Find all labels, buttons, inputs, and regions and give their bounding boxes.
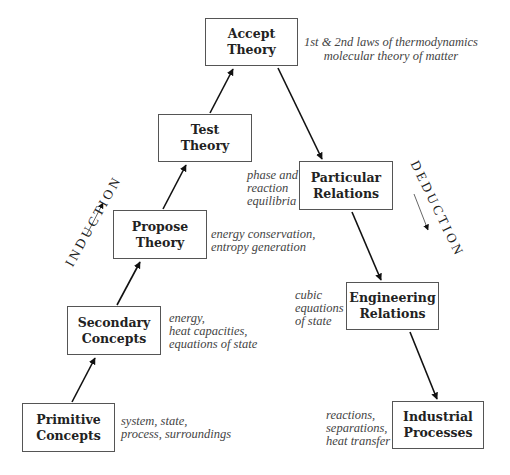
note-line: equations of state xyxy=(169,338,257,351)
arrow-particular-to-engineering xyxy=(352,212,381,280)
box-label-line1: Secondary xyxy=(78,315,151,331)
box-label-line2: Theory xyxy=(181,138,230,154)
note-propose-theory: energy conservation, entropy generation xyxy=(211,228,315,254)
box-label-line2: Theory xyxy=(227,42,276,58)
note-accept-theory: 1st & 2nd laws of thermodynamics molecul… xyxy=(304,36,478,63)
note-line: entropy generation xyxy=(211,241,315,254)
arrow-secondary-to-propose xyxy=(117,262,140,305)
arrow-primitive-to-secondary xyxy=(72,358,95,402)
box-test-theory: Test Theory xyxy=(158,114,252,162)
box-secondary-concepts: Secondary Concepts xyxy=(67,306,161,355)
box-engineering-relations: Engineering Relations xyxy=(346,282,439,330)
arrow-accept-to-particular xyxy=(278,68,322,159)
box-label-line1: Industrial xyxy=(403,409,473,425)
box-label-line1: Particular xyxy=(311,170,381,186)
box-label-line1: Propose xyxy=(132,219,188,235)
note-industrial-processes: reactions, separations, heat transfer xyxy=(326,409,390,448)
note-secondary-concepts: energy, heat capacities, equations of st… xyxy=(169,312,257,351)
box-primitive-concepts: Primitive Concepts xyxy=(22,403,115,452)
arrow-test-to-accept xyxy=(210,69,233,113)
note-line: heat transfer xyxy=(326,435,390,448)
note-line: process, surroundings xyxy=(121,428,231,441)
box-propose-theory: Propose Theory xyxy=(113,210,207,259)
box-label-line2: Concepts xyxy=(36,428,101,444)
box-label-line2: Relations xyxy=(359,306,425,322)
arrow-propose-to-test xyxy=(163,165,186,209)
note-line: equilibria xyxy=(247,195,298,208)
box-label-line2: Concepts xyxy=(82,331,147,347)
box-label-line2: Processes xyxy=(404,425,473,441)
box-industrial-processes: Industrial Processes xyxy=(392,401,484,449)
box-accept-theory: Accept Theory xyxy=(205,18,298,66)
box-particular-relations: Particular Relations xyxy=(299,161,393,210)
diagram-canvas: Accept Theory Test Theory Propose Theory… xyxy=(0,0,510,475)
box-label-line1: Test xyxy=(191,122,220,138)
note-engineering-relations: cubic equations of state xyxy=(295,289,344,328)
box-label-line1: Engineering xyxy=(349,290,435,306)
box-label-line1: Accept xyxy=(228,26,275,42)
note-primitive-concepts: system, state, process, surroundings xyxy=(121,415,231,441)
note-line: 1st & 2nd laws of thermodynamics xyxy=(304,36,478,49)
box-label-line2: Relations xyxy=(313,186,379,202)
note-line: molecular theory of matter xyxy=(304,50,478,63)
note-test-theory: phase and reaction equilibria xyxy=(247,169,298,208)
note-line: of state xyxy=(295,315,344,328)
box-label-line1: Primitive xyxy=(36,412,100,428)
arrow-engineering-to-industrial xyxy=(410,332,437,399)
box-label-line2: Theory xyxy=(136,235,185,251)
